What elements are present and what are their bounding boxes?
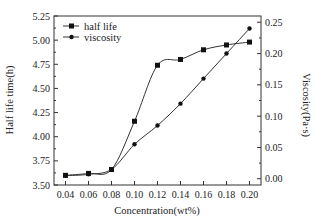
y-tick-label-left: 4.75 <box>33 59 51 70</box>
square-marker <box>132 119 137 124</box>
x-tick-label: 0.20 <box>241 189 259 200</box>
legend-circle-marker <box>69 35 73 39</box>
circle-marker <box>86 172 90 176</box>
legend: half lifeviscosity <box>63 21 122 43</box>
circle-marker <box>132 142 136 146</box>
y-tick-label-left: 4.25 <box>33 107 51 118</box>
square-marker <box>201 47 206 52</box>
circle-marker <box>63 173 67 177</box>
y-axis-label-right: Viscosity(Pa·s) <box>300 73 312 138</box>
x-tick-label: 0.08 <box>103 189 121 200</box>
x-tick-label: 0.12 <box>149 189 167 200</box>
y-tick-label-right: 0.20 <box>265 48 283 59</box>
x-tick-label: 0.18 <box>218 189 236 200</box>
square-marker <box>178 57 183 62</box>
y-tick-label-left: 4.00 <box>33 131 51 142</box>
square-marker <box>224 42 229 47</box>
y-tick-label-left: 5.25 <box>33 11 51 22</box>
y-tick-label-left: 5.00 <box>33 35 51 46</box>
y-axis-label-left: Half life time(h) <box>4 65 16 134</box>
circle-marker <box>178 101 182 105</box>
plot-series <box>63 26 252 178</box>
y-tick-label-right: 0.15 <box>265 79 283 90</box>
series-viscosity <box>63 26 251 177</box>
dual-axis-line-chart: 0.040.060.080.100.120.140.160.180.203.50… <box>0 0 316 224</box>
x-tick-label: 0.04 <box>57 189 75 200</box>
y-tick-label-right: 0.10 <box>265 111 283 122</box>
plot-axes: 0.040.060.080.100.120.140.160.180.203.50… <box>33 11 283 201</box>
legend-label: half life <box>84 21 117 32</box>
square-marker <box>155 63 160 68</box>
series-line <box>66 29 250 176</box>
x-tick-label: 0.14 <box>172 189 190 200</box>
series-line <box>66 42 250 175</box>
circle-marker <box>247 26 251 30</box>
x-tick-label: 0.16 <box>195 189 213 200</box>
y-tick-label-right: 0.25 <box>265 17 283 28</box>
legend-label: viscosity <box>84 32 122 43</box>
series-half-life <box>63 40 252 178</box>
square-marker <box>247 40 252 45</box>
x-tick-label: 0.06 <box>80 189 98 200</box>
legend-square-marker <box>69 24 74 29</box>
y-tick-label-left: 3.75 <box>33 155 51 166</box>
circle-marker <box>224 51 228 55</box>
y-tick-label-left: 4.50 <box>33 83 51 94</box>
circle-marker <box>201 76 205 80</box>
x-axis-label: Concentration(wt%) <box>114 205 200 217</box>
y-tick-label-left: 3.50 <box>33 180 51 191</box>
circle-marker <box>155 123 159 127</box>
y-tick-label-right: 0.05 <box>265 142 283 153</box>
x-tick-label: 0.10 <box>126 189 144 200</box>
circle-marker <box>109 167 113 171</box>
y-tick-label-right: 0.00 <box>265 173 283 184</box>
